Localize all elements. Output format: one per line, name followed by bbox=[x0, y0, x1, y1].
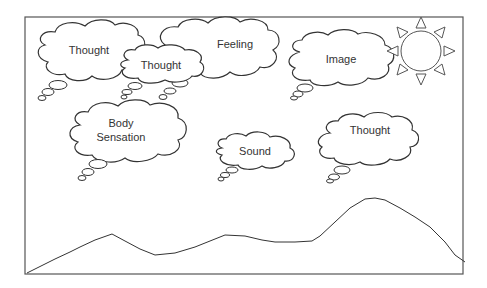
label-thought-2: Thought bbox=[136, 59, 186, 72]
label-body: Body bbox=[96, 117, 146, 130]
label-image: Image bbox=[316, 53, 366, 66]
label-thought-1: Thought bbox=[64, 44, 114, 57]
label-sound: Sound bbox=[230, 145, 280, 158]
mountain-ridge bbox=[27, 198, 465, 273]
sun-icon bbox=[387, 17, 455, 85]
label-feeling: Feeling bbox=[210, 38, 260, 51]
label-sensation: Sensation bbox=[96, 131, 146, 144]
label-thought-3: Thought bbox=[345, 124, 395, 137]
